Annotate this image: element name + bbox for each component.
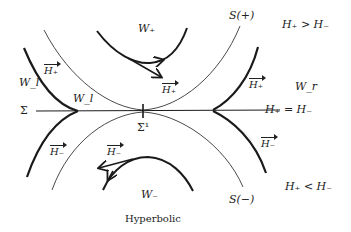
vector-label-h-plus-right: H₊ [249, 78, 263, 90]
label-w-l-outer: W_l [19, 77, 39, 88]
label-w-l-inner: W_l [73, 93, 93, 104]
vector-label-h-plus-center: H₊ [162, 83, 176, 95]
w-minus-thick-curve [103, 157, 193, 191]
vector-label-h-minus-right: H₋ [261, 137, 275, 149]
diagram-curves [0, 0, 351, 232]
label-region-top: H₊ > H₋ [282, 19, 329, 30]
left-lower-thick-curve [27, 111, 78, 177]
label-sigma1: Σ¹ [137, 122, 149, 133]
label-region-mid: H₊ = H₋ [265, 104, 312, 115]
label-w-plus: W₊ [138, 23, 155, 34]
label-sigma: Σ [20, 105, 28, 116]
caption-hyperbolic: Hyperbolic [125, 213, 181, 224]
right-lower-thick-curve [213, 111, 266, 173]
label-s-minus: S(−) [229, 194, 254, 205]
label-w-r: W_r [295, 81, 317, 92]
w-plus-arrow-vector [128, 58, 161, 77]
label-s-plus: S(+) [229, 10, 254, 21]
label-w-minus: W₋ [141, 189, 158, 200]
right-upper-arrow [231, 82, 241, 96]
label-region-bottom: H₊ < H₋ [285, 181, 332, 192]
hyperbolic-diagram: W₊ W₋ W_l W_l W_r Σ Σ¹ S(+) S(−) H₊ > H₋… [0, 0, 351, 232]
vector-label-h-minus-center: H₋ [107, 145, 121, 157]
w-plus-arrow-tangent [155, 60, 163, 62]
w-minus-arrow-vector [99, 159, 133, 168]
vector-label-h-minus-left: H₋ [50, 145, 64, 157]
vector-label-h-plus-left: H₊ [44, 64, 58, 76]
